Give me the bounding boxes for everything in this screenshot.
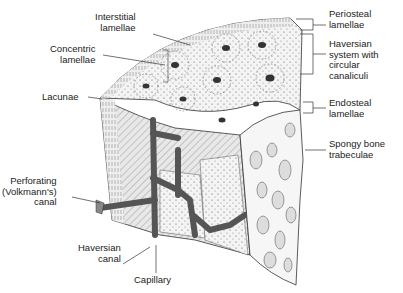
label-spongy-bone-trabeculae: Spongy bone trabeculae: [329, 139, 385, 160]
label-capillary: Capillary: [134, 275, 171, 286]
label-concentric-lamellae: Concentric lamellae: [50, 44, 95, 65]
label-periosteal-lamellae: Periosteal lamellae: [329, 9, 371, 30]
label-lacunae: Lacunae: [42, 92, 78, 103]
label-interstitial-lamellae: Interstitial lamellae: [95, 12, 136, 33]
label-endosteal-lamellae: Endosteal lamellae: [329, 98, 371, 119]
label-haversian-system: Haversian system with circular canalicul…: [329, 39, 379, 81]
label-perforating-canal: Perforating (Volkmann's) canal: [2, 176, 57, 208]
compact-bone-top: [100, 18, 302, 123]
spongy-bone: [240, 110, 303, 285]
label-haversian-canal: Haversian canal: [78, 243, 121, 264]
